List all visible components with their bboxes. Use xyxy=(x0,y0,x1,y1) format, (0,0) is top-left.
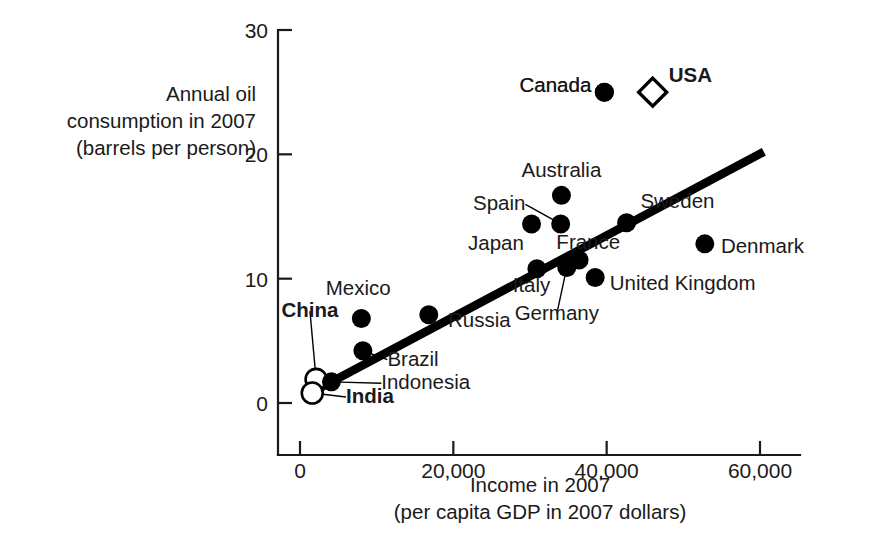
x-tick-label: 0 xyxy=(294,459,306,482)
y-tick-label: 10 xyxy=(245,268,268,291)
data-point-label-spain: Spain xyxy=(473,191,525,214)
data-point-label-canada: Canada xyxy=(520,73,592,96)
data-point-label-china: China xyxy=(281,298,339,321)
data-point-india[interactable] xyxy=(302,383,323,404)
data-point-indonesia[interactable] xyxy=(322,372,341,391)
data-point-label-france: France xyxy=(556,230,620,253)
data-point-label-australia: Australia xyxy=(522,158,602,181)
x-axis-title: Income in 2007 xyxy=(470,473,610,496)
data-point-denmark[interactable] xyxy=(695,234,714,253)
data-point-label-mexico: Mexico xyxy=(326,276,391,299)
y-axis-title-line-3: (barrels per person) xyxy=(76,136,256,159)
x-axis-ticks xyxy=(300,441,760,455)
data-point-label-italy: Italy xyxy=(513,273,551,296)
y-tick-label: 0 xyxy=(256,392,268,415)
data-point-usa[interactable] xyxy=(639,78,667,106)
data-point-label-russia: Russia xyxy=(448,308,511,331)
y-axis-title-line-2: consumption in 2007 xyxy=(67,109,256,132)
data-point-label-sweden: Sweden xyxy=(640,189,714,212)
data-point-label-denmark: Denmark xyxy=(721,234,805,257)
data-point-label-indonesia: Indonesia xyxy=(381,370,471,393)
chart-canvas: 0102030 020,00040,00060,000 ChinaIndiaIn… xyxy=(0,0,883,545)
y-axis-tick-labels: 0102030 xyxy=(245,19,268,415)
data-point-canada[interactable] xyxy=(595,83,614,102)
y-axis-title-line-1: Annual oil xyxy=(166,82,256,105)
x-tick-label: 60,000 xyxy=(728,459,792,482)
y-tick-label: 30 xyxy=(245,19,268,42)
y-axis-title-group: Annual oil consumption in 2007 (barrels … xyxy=(67,82,256,159)
data-point-label-united-kingdom: United Kingdom xyxy=(610,271,756,294)
data-point-france[interactable] xyxy=(570,251,589,270)
data-point-brazil[interactable] xyxy=(353,341,372,360)
data-point-label-japan: Japan xyxy=(468,231,524,254)
data-point-mexico[interactable] xyxy=(352,309,371,328)
x-axis-subtitle: (per capita GDP in 2007 dollars) xyxy=(394,500,686,523)
data-point-label-germany: Germany xyxy=(515,301,600,324)
data-point-australia[interactable] xyxy=(552,186,571,205)
data-point-label-brazil: Brazil xyxy=(387,347,438,370)
y-axis-ticks xyxy=(278,30,292,403)
oil-consumption-vs-income-scatter-chart: 0102030 020,00040,00060,000 ChinaIndiaIn… xyxy=(0,0,883,545)
data-point-russia[interactable] xyxy=(419,305,438,324)
data-point-japan[interactable] xyxy=(522,214,541,233)
data-point-label-usa: USA xyxy=(669,63,712,86)
data-point-united-kingdom[interactable] xyxy=(586,268,605,287)
